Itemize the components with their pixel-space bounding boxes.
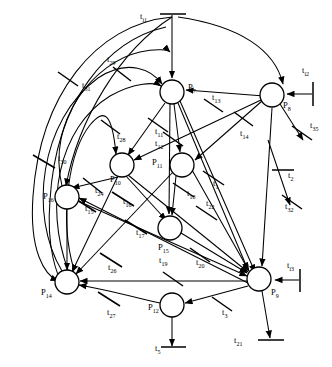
arc-p8-t32 (268, 140, 290, 205)
arc-p9-t21 (262, 291, 270, 338)
place-p11[interactable] (170, 153, 194, 177)
transition-label-t28: t28 (117, 131, 125, 143)
tick-t27 (98, 292, 120, 306)
arc-ti1-p8-sweep (178, 17, 283, 84)
tick-t11 (148, 118, 168, 132)
tick-t14 (234, 112, 253, 126)
transition-label-t22: t22 (206, 198, 214, 210)
arc-p7-p15 (169, 104, 170, 214)
arc-p14-p7-inner (57, 84, 161, 270)
transition-label-t14: t14 (240, 128, 248, 140)
arc-p7-p11 (174, 104, 180, 152)
transition-label-t31: t31 (82, 80, 90, 92)
transition-label-t12: t12 (155, 138, 163, 150)
place-p15[interactable] (158, 216, 182, 240)
transition-label-t35: t35 (310, 120, 318, 132)
tick-t12 (163, 132, 183, 146)
place-p14[interactable] (55, 270, 79, 294)
transition-label-t21: t21 (234, 335, 242, 347)
place-label-p7: P7 (188, 82, 196, 94)
tick-t26 (100, 253, 122, 267)
transition-label-ti1: ti1 (140, 11, 147, 23)
arc-p15-p9 (181, 233, 247, 273)
transition-label-t27: t27 (107, 307, 115, 319)
transition-label-t24: t24 (95, 185, 103, 197)
place-label-p11: P11 (152, 157, 163, 169)
arc-p10-p15 (126, 176, 166, 220)
place-label-p8: P8 (283, 100, 291, 112)
place-p8[interactable] (260, 83, 284, 107)
transition-label-t5: t5 (155, 343, 160, 355)
place-label-p15: P15 (158, 242, 169, 254)
arc-p8-p7 (186, 90, 264, 96)
transition-label-t3: t3 (222, 307, 227, 319)
petri-net-canvas: P7P8P10P11P16P15P14P9P12ti1ti2ti3t1t2t3t… (0, 0, 332, 367)
place-label-p14: P14 (41, 287, 52, 299)
arc-p12-p14 (79, 285, 160, 303)
transition-label-t2: t2 (288, 170, 293, 182)
transition-label-t13: t13 (212, 92, 220, 104)
tick-t19 (163, 272, 183, 286)
place-p12[interactable] (160, 293, 184, 317)
place-label-p9: P9 (271, 287, 279, 299)
arc-p8-p11 (195, 101, 262, 160)
transition-label-ti3: ti3 (287, 260, 294, 272)
transition-label-ti2: ti2 (302, 65, 309, 77)
transition-label-t26: t26 (108, 262, 116, 274)
arc-p11-p15 (172, 176, 176, 215)
place-label-p12: P12 (148, 302, 159, 314)
arc-ti1-left-sweep (32, 17, 172, 281)
arc-p8-p9 (262, 108, 272, 266)
transition-label-t16: t16 (123, 196, 131, 208)
place-label-p16: P16 (43, 191, 54, 203)
tick-t29 (113, 67, 131, 81)
transition-label-t19: t19 (159, 255, 167, 267)
place-p16[interactable] (55, 185, 79, 209)
place-p7[interactable] (160, 80, 184, 104)
place-p9[interactable] (247, 267, 271, 291)
petri-net-diagram: P7P8P10P11P16P15P14P9P12ti1ti2ti3t1t2t3t… (0, 0, 332, 367)
transition-label-t18: t18 (187, 188, 195, 200)
